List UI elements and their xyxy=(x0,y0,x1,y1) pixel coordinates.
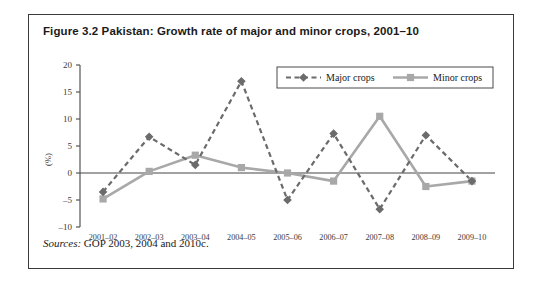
line-chart-svg: –10–505101520(%)2001–022002–032003–04200… xyxy=(29,15,515,270)
y-axis-tick-label: 15 xyxy=(63,87,73,97)
series-line-minor-crops xyxy=(103,116,472,199)
source-text: GOP 2003, 2004 and 2010c. xyxy=(81,237,209,249)
data-point-marker xyxy=(422,131,431,140)
legend-label-minor-crops: Minor crops xyxy=(433,72,482,83)
data-point-marker xyxy=(284,169,291,176)
x-axis-tick-label: 2007–08 xyxy=(365,233,394,242)
data-point-marker xyxy=(146,168,153,175)
data-point-marker xyxy=(422,183,429,190)
legend-marker-minor-crops xyxy=(407,74,414,81)
source-label: Sources: xyxy=(43,237,81,249)
x-axis-tick-label: 2006–07 xyxy=(319,233,348,242)
y-axis-tick-label: 0 xyxy=(68,168,73,178)
x-axis-tick-label: 2005–06 xyxy=(273,233,302,242)
x-axis-tick-label: 2004–05 xyxy=(227,233,256,242)
legend-label-major-crops: Major crops xyxy=(326,72,375,83)
data-point-marker xyxy=(330,178,337,185)
y-axis-title: (%) xyxy=(43,153,53,166)
data-point-marker xyxy=(237,77,246,86)
series-line-major-crops xyxy=(103,81,472,209)
y-axis-tick-label: 20 xyxy=(63,60,73,70)
y-axis-tick-label: 5 xyxy=(68,141,73,151)
figure-frame: Figure 3.2 Pakistan: Growth rate of majo… xyxy=(28,14,514,269)
y-axis-tick-label: –5 xyxy=(62,195,73,205)
data-point-marker xyxy=(192,152,199,159)
data-point-marker xyxy=(145,133,154,142)
y-axis-tick-label: 10 xyxy=(63,114,73,124)
data-point-marker xyxy=(238,164,245,171)
x-axis-tick-label: 2009–10 xyxy=(458,233,487,242)
source-note: Sources: GOP 2003, 2004 and 2010c. xyxy=(43,237,209,249)
x-axis-tick-label: 2008–09 xyxy=(412,233,441,242)
data-point-marker xyxy=(376,113,383,120)
data-point-marker xyxy=(99,195,106,202)
y-axis-tick-label: –10 xyxy=(58,222,73,232)
chart-plot-area: –10–505101520(%)2001–022002–032003–04200… xyxy=(29,15,515,270)
